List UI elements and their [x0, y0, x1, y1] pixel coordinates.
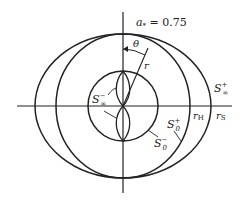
- s0-minus-label: S−0: [154, 136, 168, 152]
- r-h-label: rH: [193, 110, 204, 122]
- r-label: r: [144, 60, 150, 71]
- s-inf-plus-label: S+∞: [214, 81, 228, 97]
- ergosphere-diagram: a* = 0.75 θ r S+∞ S−∞ S+0 S−0 rH rS: [0, 0, 244, 206]
- s-inf-minus-label: S−∞: [92, 92, 106, 108]
- r-s-label: rS: [216, 110, 226, 122]
- theta-label: θ: [133, 38, 139, 49]
- title-label: a* = 0.75: [136, 16, 187, 30]
- s0-minus-arrow: [148, 130, 158, 137]
- s0-plus-label: S+0: [167, 117, 181, 133]
- theta-arrow-icon: [123, 46, 128, 52]
- s-inf-minus-arrow-2: [104, 111, 116, 118]
